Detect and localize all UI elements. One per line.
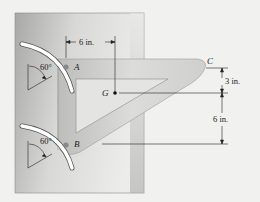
figure-canvas: 6 in. 3 in. 6 in. 60° 60° A B C G	[0, 0, 260, 202]
angle-label-a: 60°	[40, 62, 52, 72]
dim-label-horizontal: 6 in.	[79, 37, 94, 47]
angle-label-b: 60°	[40, 136, 52, 146]
point-label-g: G	[102, 88, 109, 98]
dim-label-3in: 3 in.	[225, 76, 240, 86]
point-label-a: A	[73, 62, 80, 72]
pin-a	[63, 64, 68, 69]
point-label-b: B	[74, 139, 80, 149]
pin-b	[63, 142, 68, 147]
dim-label-6in: 6 in.	[213, 114, 228, 124]
point-label-c: C	[207, 56, 214, 66]
statics-diagram: 6 in. 3 in. 6 in. 60° 60° A B C G	[0, 0, 260, 202]
